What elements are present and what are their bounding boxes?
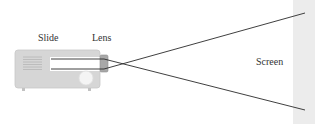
lamp-knob-icon: [79, 71, 93, 85]
screen: [293, 0, 315, 124]
projector-foot-right: [88, 88, 91, 91]
projector-foot-left: [22, 88, 25, 91]
projector: [15, 50, 108, 91]
projector-diagram: Slide Lens Screen: [0, 0, 329, 124]
label-screen: Screen: [256, 56, 283, 67]
label-slide: Slide: [38, 32, 59, 43]
label-lens: Lens: [92, 32, 112, 43]
